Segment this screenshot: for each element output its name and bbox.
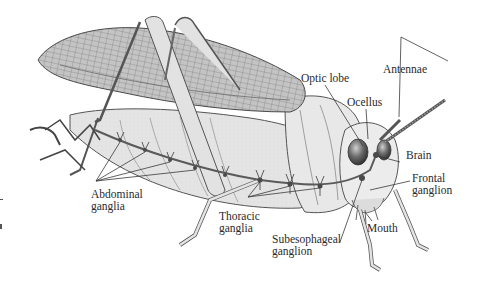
- label-line-2: ganglia: [91, 200, 143, 212]
- label-line-1: Thoracic: [219, 210, 260, 222]
- label-ocellus: Ocellus: [347, 96, 382, 108]
- label-antennae: Antennae: [383, 63, 427, 75]
- label-line-1: Frontal: [412, 172, 452, 184]
- grasshopper-illustration: [0, 0, 477, 285]
- brain-marker: [373, 152, 379, 158]
- label-frontal-ganglion: Frontal ganglion: [412, 172, 452, 196]
- label-abdominal-ganglia: Abdominal ganglia: [91, 188, 143, 212]
- label-subesophageal-ganglion: Subesophageal ganglion: [272, 233, 341, 257]
- diagram-canvas: Antennae Optic lobe Ocellus Brain Fronta…: [0, 0, 477, 285]
- label-optic-lobe: Optic lobe: [301, 72, 349, 84]
- label-line-1: Abdominal: [91, 188, 143, 200]
- label-line-2: ganglion: [412, 184, 452, 196]
- edge-mark: [0, 199, 3, 200]
- label-line-1: Subesophageal: [272, 233, 341, 245]
- label-line-2: ganglion: [272, 245, 341, 257]
- compound-eye-left: [348, 139, 368, 165]
- edge-mark: [0, 224, 2, 229]
- label-line-2: ganglia: [219, 222, 260, 234]
- compound-eye-right: [377, 140, 391, 160]
- label-brain: Brain: [406, 149, 432, 161]
- label-mouth: Mouth: [367, 222, 398, 234]
- label-thoracic-ganglia: Thoracic ganglia: [219, 210, 260, 234]
